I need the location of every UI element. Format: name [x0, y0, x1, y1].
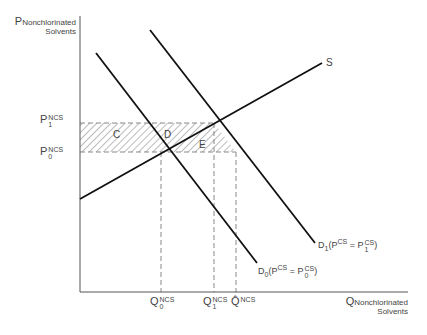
- q1-sub: 1: [213, 303, 228, 310]
- x-axis-main: Q: [346, 295, 355, 307]
- region-e-label: E: [199, 140, 206, 150]
- diagram-canvas: [0, 0, 427, 335]
- q0-main: Q: [150, 295, 159, 307]
- y-axis-label: PNonchlorinated Solvents: [8, 16, 76, 36]
- hatched-area: [80, 123, 236, 152]
- y-axis-sub1: Nonchlorinated: [22, 18, 76, 27]
- d0-close: ): [314, 266, 317, 276]
- d1-label: D1(PCS = PCS1): [318, 238, 377, 253]
- d0-sup2: CS: [304, 265, 314, 272]
- qhat-main: Q̂: [231, 295, 240, 307]
- p1-sup: NCS: [48, 114, 63, 121]
- p1-ncs-label: PNCS1: [40, 114, 63, 128]
- q0-sup: NCS: [160, 296, 175, 303]
- q1-sup: NCS: [213, 296, 228, 303]
- q0-sub: 0: [160, 303, 175, 310]
- d0-sup: CS: [277, 264, 287, 271]
- p0-ncs-label: PNCS0: [40, 146, 63, 160]
- d1-close: ): [374, 240, 377, 250]
- qhat-ncs-label: Q̂NCS: [231, 296, 255, 310]
- d1-sub2: 1: [364, 246, 374, 253]
- p0-sup: NCS: [48, 146, 63, 153]
- x-axis-label: QNonchlorinated Solvents: [336, 296, 408, 316]
- p0-main: P: [40, 145, 47, 157]
- d0-sub2: 0: [304, 272, 314, 279]
- q0-ncs-label: QNCS0: [150, 296, 174, 310]
- q1-main: Q: [203, 295, 212, 307]
- y-axis-sub2: Solvents: [45, 27, 76, 36]
- d0-label: D0(PCS = PCS0): [258, 264, 317, 279]
- supply-label: S: [326, 58, 333, 68]
- d1-eq: = P: [347, 240, 363, 250]
- d1-sup2: CS: [364, 239, 374, 246]
- qhat-sup: NCS: [241, 296, 256, 303]
- x-axis-sub1: Nonchlorinated: [354, 298, 408, 307]
- d1-sup: CS: [337, 238, 347, 245]
- demand-curve-d0: [96, 53, 257, 263]
- x-axis-sub2: Solvents: [377, 307, 408, 316]
- p0-sub: 0: [48, 153, 63, 160]
- q1-ncs-label: QNCS1: [203, 296, 227, 310]
- p1-main: P: [40, 113, 47, 125]
- p1-sub: 1: [48, 121, 63, 128]
- region-d-label: D: [164, 130, 171, 140]
- d0-eq: = P: [287, 266, 303, 276]
- region-c-label: C: [113, 130, 120, 140]
